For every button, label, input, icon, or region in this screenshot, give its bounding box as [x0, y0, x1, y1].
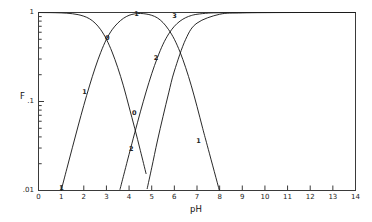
x-tick-label: 4 [119, 194, 139, 201]
chart-series-lines [39, 12, 356, 192]
y-tick-label: 1 [0, 9, 34, 16]
x-tick-label: 6 [164, 194, 184, 201]
chart-figure: 1.1.01 01234567891011121314 001111223 F … [0, 0, 372, 222]
y-axis-ticks [39, 13, 45, 191]
series-label-2: 2 [129, 146, 134, 153]
chart-canvas [0, 0, 372, 222]
x-tick-label: 7 [187, 194, 207, 201]
series-label-0: 0 [132, 110, 137, 117]
x-tick-label: 8 [210, 194, 230, 201]
series-line-2 [120, 13, 355, 190]
x-tick-label: 11 [278, 194, 298, 201]
x-tick-label: 13 [323, 194, 343, 201]
plot-frame [39, 13, 356, 191]
series-label-1: 1 [134, 11, 139, 18]
x-tick-label: 2 [74, 194, 94, 201]
x-tick-label: 10 [255, 194, 275, 201]
series-label-1: 1 [196, 138, 201, 145]
series-line-1 [61, 13, 220, 192]
x-tick-label: 12 [300, 194, 320, 201]
series-label-3: 3 [172, 13, 177, 20]
series-label-0: 0 [105, 35, 110, 42]
x-tick-label: 9 [232, 194, 252, 201]
x-tick-label: 1 [51, 194, 71, 201]
y-tick-label: .01 [0, 187, 34, 194]
series-label-1: 1 [59, 185, 64, 192]
x-tick-label: 5 [142, 194, 162, 201]
x-axis-ticks [39, 186, 356, 191]
series-label-2: 2 [154, 55, 159, 62]
x-tick-label: 0 [29, 194, 49, 201]
x-tick-label: 14 [346, 194, 366, 201]
y-axis-title: F [20, 92, 25, 101]
y-tick-label: .1 [0, 98, 34, 105]
x-tick-label: 3 [96, 194, 116, 201]
x-axis-title: pH [190, 205, 202, 214]
series-line-3 [147, 12, 355, 188]
series-label-1: 1 [82, 89, 87, 96]
